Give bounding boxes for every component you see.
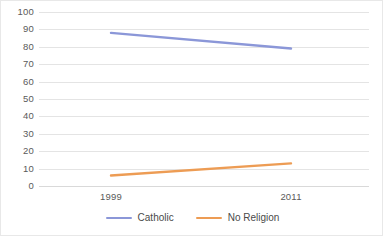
legend-item-no-religion[interactable]: No Religion [196, 212, 280, 224]
legend-label: No Religion [228, 212, 280, 224]
legend-label: Catholic [138, 212, 174, 224]
legend-item-catholic[interactable]: Catholic [106, 212, 174, 224]
x-tick-label: 2011 [280, 191, 301, 203]
y-tick-label: 0 [2, 181, 34, 191]
y-axis: 1009080706050403020100 [1, 12, 34, 186]
y-tick-label: 40 [2, 111, 34, 121]
y-tick-label: 100 [2, 7, 34, 17]
gridline-0 [39, 186, 369, 187]
y-tick-label: 70 [2, 59, 34, 69]
series-layer [39, 12, 369, 186]
series-line-no-religion [111, 163, 291, 175]
series-line-catholic [111, 33, 291, 49]
y-tick-label: 90 [2, 24, 34, 34]
chart-legend: CatholicNo Religion [1, 212, 383, 224]
line-chart: 1009080706050403020100 19992011 Catholic… [0, 0, 383, 236]
y-tick-label: 30 [2, 129, 34, 139]
legend-swatch-icon [106, 217, 132, 219]
y-tick-label: 60 [2, 77, 34, 87]
x-axis: 19992011 [39, 191, 369, 205]
plot-area [39, 12, 369, 186]
y-tick-label: 50 [2, 94, 34, 104]
y-tick-label: 80 [2, 42, 34, 52]
x-tick-label: 1999 [100, 191, 122, 203]
y-tick-label: 10 [2, 164, 34, 174]
y-tick-label: 20 [2, 146, 34, 156]
legend-swatch-icon [196, 217, 222, 219]
